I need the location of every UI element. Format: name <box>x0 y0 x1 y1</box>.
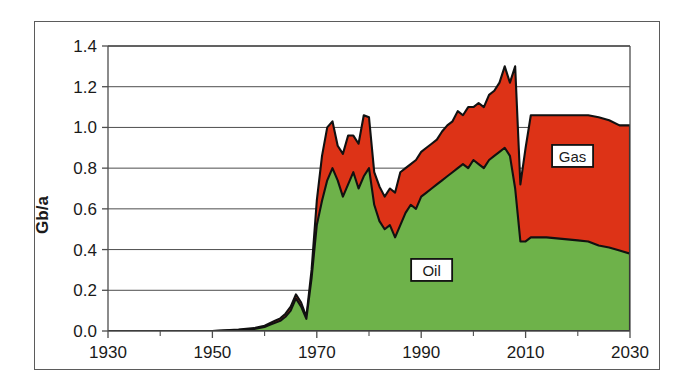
x-tick-label: 1950 <box>193 343 231 362</box>
y-tick-label: 1.4 <box>73 37 97 56</box>
y-tick-label: 0.6 <box>73 200 97 219</box>
y-axis-ticks: 0.00.20.40.60.81.01.21.4 <box>73 37 108 341</box>
x-tick-label: 2010 <box>507 343 545 362</box>
x-tick-label: 2030 <box>611 343 649 362</box>
y-tick-label: 1.0 <box>73 118 97 137</box>
y-tick-label: 1.2 <box>73 78 97 97</box>
area-chart: 0.00.20.40.60.81.01.21.4 193019501970199… <box>0 0 690 387</box>
y-tick-label: 0.2 <box>73 281 97 300</box>
x-tick-label: 1930 <box>89 343 127 362</box>
y-axis-title: Gb/a <box>33 196 52 234</box>
gas-label: Gas <box>559 148 587 165</box>
y-tick-label: 0.0 <box>73 322 97 341</box>
oil-label: Oil <box>422 262 440 279</box>
x-axis-ticks: 193019501970199020102030 <box>89 331 649 362</box>
y-tick-label: 0.4 <box>73 241 97 260</box>
y-tick-label: 0.8 <box>73 159 97 178</box>
x-tick-label: 1970 <box>298 343 336 362</box>
x-tick-label: 1990 <box>402 343 440 362</box>
chart-figure: 0.00.20.40.60.81.01.21.4 193019501970199… <box>0 0 690 387</box>
